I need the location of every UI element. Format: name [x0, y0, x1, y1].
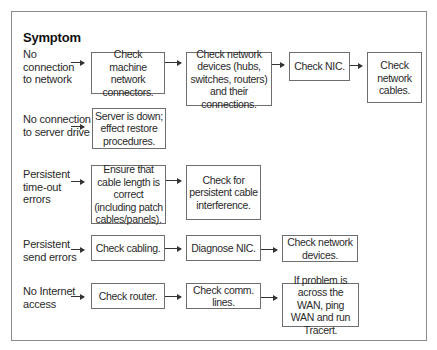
step-box: Diagnose NIC.: [186, 235, 261, 261]
arrow-icon: [165, 248, 181, 249]
diagram-title: Symptom: [23, 30, 81, 45]
arrow-icon: [350, 65, 362, 66]
arrow-icon: [166, 180, 181, 181]
arrow-icon: [165, 296, 181, 297]
arrow-icon: [71, 181, 84, 182]
step-box: Check network devices.: [282, 235, 358, 262]
step-box: Check for persistent cable interference.: [186, 165, 261, 220]
step-box: Check network devices (hubs, switches, r…: [186, 52, 272, 106]
arrow-icon: [71, 62, 84, 63]
step-box: Check machine network connectors.: [91, 52, 165, 94]
arrow-icon: [165, 62, 181, 63]
step-box: Check NIC.: [289, 52, 350, 81]
arrow-icon: [71, 126, 84, 127]
arrow-icon: [261, 297, 277, 298]
arrow-icon: [71, 296, 84, 297]
symptom-label: Persistent time-out errors: [23, 168, 83, 206]
symptom-label: No connection to network: [23, 48, 83, 86]
step-box: Check router.: [91, 283, 165, 309]
step-box: Check comm. lines.: [186, 283, 261, 309]
arrow-icon: [272, 64, 284, 65]
step-box: Check network cables.: [367, 52, 422, 103]
step-box: Check cabling.: [91, 235, 165, 261]
step-box: Ensure that cable length is correct (inc…: [91, 165, 166, 224]
symptom-label: Persistent send errors: [23, 238, 83, 263]
arrow-icon: [71, 249, 84, 250]
arrow-icon: [261, 249, 277, 250]
symptom-label: No Internet access: [23, 285, 83, 310]
step-box: Server is down; effect restore procedure…: [92, 108, 166, 149]
step-box: If problem is across the WAN, ping WAN a…: [282, 283, 359, 327]
